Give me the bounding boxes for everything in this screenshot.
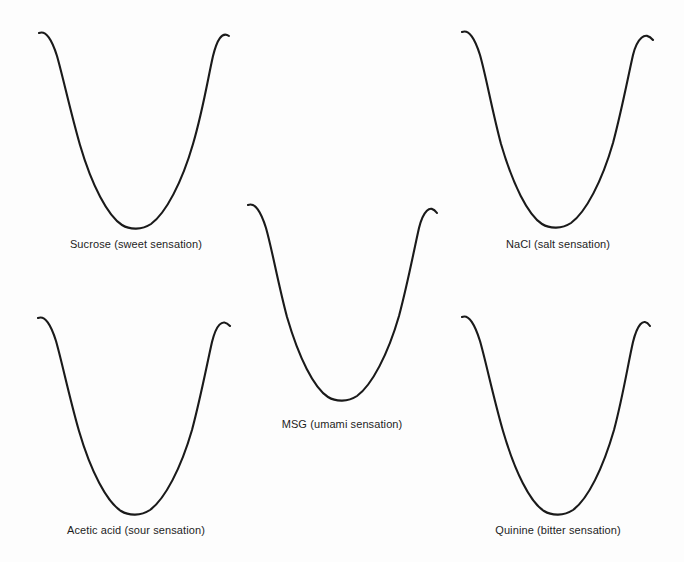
panel-label-msg: MSG (umami sensation) — [282, 418, 403, 431]
panel-label-sucrose: Sucrose (sweet sensation) — [70, 238, 202, 251]
panel-label-quinine: Quinine (bitter sensation) — [495, 524, 621, 537]
curve-quinine — [462, 317, 650, 515]
panel-label-acetic-acid: Acetic acid (sour sensation) — [67, 524, 205, 537]
curve-nacl — [462, 31, 653, 227]
curve-msg — [248, 204, 437, 400]
curve-acetic-acid — [38, 317, 230, 514]
curve-sucrose — [39, 32, 229, 228]
taste-curves-canvas — [0, 0, 684, 562]
panel-label-nacl: NaCl (salt sensation) — [506, 238, 610, 251]
taste-curves-figure: Sucrose (sweet sensation) NaCl (salt sen… — [0, 0, 684, 562]
